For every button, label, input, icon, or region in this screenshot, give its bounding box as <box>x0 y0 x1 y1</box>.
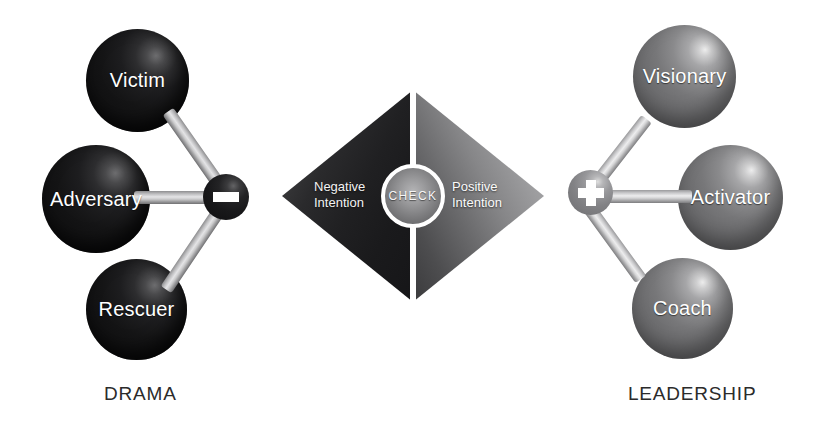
minus-hub-node[interactable] <box>203 174 249 220</box>
connector-rescuer-to-minus <box>161 210 223 294</box>
caption-drama: DRAMA <box>104 383 177 405</box>
check-circle-label: CHECK <box>388 189 437 203</box>
minus-sign-icon <box>213 192 239 202</box>
node-coach-label: Coach <box>653 297 712 320</box>
positive-intention-line1: Positive <box>452 179 502 195</box>
plus-sign-icon <box>578 180 604 206</box>
node-coach[interactable]: Coach <box>632 258 733 359</box>
node-rescuer-label: Rescuer <box>99 298 175 321</box>
check-circle[interactable]: CHECK <box>381 164 445 228</box>
node-adversary[interactable]: Adversary <box>42 145 150 253</box>
node-adversary-label: Adversary <box>50 188 142 211</box>
node-visionary[interactable]: Visionary <box>633 25 736 128</box>
positive-intention-line2: Intention <box>452 195 502 211</box>
caption-leadership: LEADERSHIP <box>628 383 756 405</box>
node-victim-label: Victim <box>110 69 165 92</box>
negative-intention-label: Negative Intention <box>314 179 365 211</box>
plus-hub-node[interactable] <box>568 170 613 215</box>
negative-intention-line2: Intention <box>314 195 365 211</box>
positive-intention-label: Positive Intention <box>452 179 502 211</box>
node-activator-label: Activator <box>691 186 771 209</box>
node-activator[interactable]: Activator <box>678 145 783 250</box>
negative-intention-line1: Negative <box>314 179 365 195</box>
node-visionary-label: Visionary <box>643 65 727 88</box>
diagram-canvas: Victim Adversary Rescuer Negative Intent… <box>0 0 819 430</box>
